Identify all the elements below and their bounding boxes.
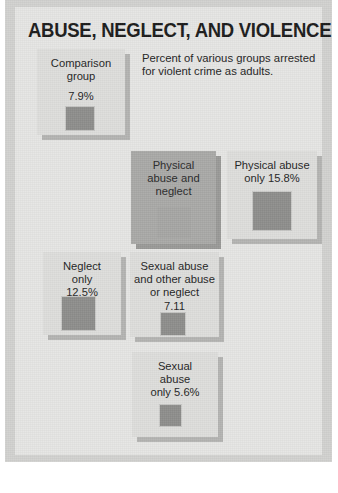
panel-label-line2: and other abuse bbox=[133, 273, 216, 286]
panel-label-line2: only bbox=[46, 273, 118, 286]
panel-face: Neglect only 12.5% bbox=[43, 252, 121, 335]
panel-label: Sexual abuse only 5.6% bbox=[132, 360, 218, 400]
panel-value-swatch bbox=[159, 404, 182, 427]
panel-label-line2: only 15.8% bbox=[230, 172, 314, 185]
poster-card: ABUSE, NEGLECT, AND VIOLENCE Percent of … bbox=[15, 7, 322, 455]
panel-label-line1: Physical bbox=[134, 159, 213, 172]
panel-value-label: 7.9% bbox=[40, 90, 122, 103]
panel-face: Sexual abuse and other abuse or neglect … bbox=[130, 252, 219, 337]
poster-background: ABUSE, NEGLECT, AND VIOLENCE Percent of … bbox=[5, 0, 332, 462]
chart-subtitle: Percent of various groups arrested for v… bbox=[142, 52, 317, 78]
panel-label-line3: neglect bbox=[134, 185, 213, 198]
panel-label-line1: Sexual bbox=[135, 360, 215, 373]
panel-label: Sexual abuse and other abuse or neglect … bbox=[130, 260, 219, 313]
panel-face: Physical abuse and neglect bbox=[131, 151, 216, 244]
subtitle-text: Percent of various groups arrested for v… bbox=[142, 52, 315, 77]
panel-label-line1: Sexual abuse bbox=[133, 260, 216, 273]
panel-physical-abuse-only[interactable]: Physical abuse only 15.8% bbox=[227, 151, 317, 239]
panel-label-line2: abuse bbox=[135, 373, 215, 386]
panel-label-line1: Comparison bbox=[40, 57, 122, 70]
panel-label-line2: group bbox=[40, 70, 122, 83]
panel-label-line2: abuse and bbox=[134, 172, 213, 185]
panel-value-swatch bbox=[156, 206, 192, 239]
panel-label-line1: Neglect bbox=[46, 260, 118, 273]
panel-face: Comparison group 7.9% bbox=[37, 49, 125, 135]
panel-neglect-only[interactable]: Neglect only 12.5% bbox=[43, 252, 121, 335]
panel-label-line1: Physical abuse bbox=[230, 159, 314, 172]
panel-value-swatch bbox=[160, 312, 186, 336]
panel-value-label: only 5.6% bbox=[135, 386, 215, 399]
panel-physical-abuse-and-neglect[interactable]: Physical abuse and neglect bbox=[131, 151, 216, 244]
panel-face: Sexual abuse only 5.6% bbox=[132, 352, 218, 437]
panel-value-swatch bbox=[65, 106, 95, 131]
page-title: ABUSE, NEGLECT, AND VIOLENCE bbox=[28, 19, 304, 42]
panel-comparison-group[interactable]: Comparison group 7.9% bbox=[37, 49, 125, 135]
panel-label-line3: or neglect bbox=[133, 286, 216, 299]
panel-value-label: 7.11 bbox=[133, 300, 216, 313]
panel-label-spacer bbox=[40, 83, 122, 90]
panel-label: Comparison group 7.9% bbox=[37, 57, 125, 104]
panel-label: Physical abuse and neglect bbox=[131, 159, 216, 199]
panel-sexual-abuse-only[interactable]: Sexual abuse only 5.6% bbox=[132, 352, 218, 437]
panel-face: Physical abuse only 15.8% bbox=[227, 151, 317, 239]
panel-value-swatch bbox=[252, 191, 292, 231]
panel-value-swatch bbox=[61, 296, 96, 331]
panel-label: Neglect only 12.5% bbox=[43, 260, 121, 300]
panel-sexual-abuse-and-other[interactable]: Sexual abuse and other abuse or neglect … bbox=[130, 252, 219, 337]
panel-label: Physical abuse only 15.8% bbox=[227, 159, 317, 185]
